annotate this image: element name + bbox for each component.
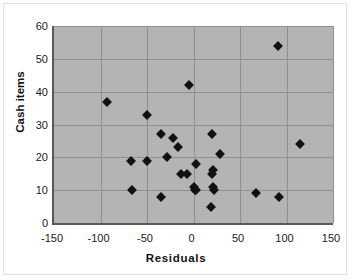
x-tick-label-150: 150 <box>309 232 353 244</box>
gridline-x--100 <box>101 26 102 223</box>
data-point <box>295 139 305 149</box>
data-point <box>182 169 192 179</box>
data-point <box>142 110 152 120</box>
gridline-x--50 <box>147 26 148 223</box>
data-point <box>168 133 178 143</box>
x-axis-tick-labels: -150-100-50050100150 <box>4 232 348 248</box>
data-point <box>173 143 183 153</box>
data-point <box>127 185 137 195</box>
x-tick-label--100: -100 <box>77 232 121 244</box>
x-tick-label-100: 100 <box>263 232 307 244</box>
data-point <box>162 152 172 162</box>
y-tick-label-40: 40 <box>14 86 48 98</box>
data-point <box>184 80 194 90</box>
y-tick-label-20: 20 <box>14 151 48 163</box>
data-point <box>102 97 112 107</box>
chart-container: -150-100-50050100150 Residuals Cash item… <box>3 3 347 275</box>
y-tick-label-60: 60 <box>14 20 48 32</box>
x-axis-title: Residuals <box>4 252 348 264</box>
data-point <box>273 41 283 51</box>
x-tick-label--150: -150 <box>30 232 74 244</box>
data-point <box>156 129 166 139</box>
data-point <box>206 202 216 212</box>
gridline-x-50 <box>240 26 241 223</box>
data-point <box>156 192 166 202</box>
y-tick-label-30: 30 <box>14 119 48 131</box>
gridline-x-100 <box>287 26 288 223</box>
data-point <box>207 129 217 139</box>
gridline-x-150 <box>333 26 334 223</box>
plot-area <box>52 26 333 225</box>
x-tick-label-50: 50 <box>216 232 260 244</box>
y-tick-label-0: 0 <box>14 217 48 229</box>
x-tick-label--50: -50 <box>123 232 167 244</box>
data-point <box>274 192 284 202</box>
y-tick-label-50: 50 <box>14 53 48 65</box>
x-tick-label-0: 0 <box>170 232 214 244</box>
y-tick-label-10: 10 <box>14 184 48 196</box>
